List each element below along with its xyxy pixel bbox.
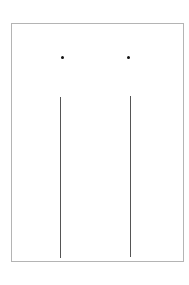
vertical-line-left (60, 97, 61, 258)
dot-left (61, 56, 64, 59)
drawing-frame (11, 23, 184, 262)
dot-right (127, 56, 130, 59)
vertical-line-right (130, 96, 131, 257)
